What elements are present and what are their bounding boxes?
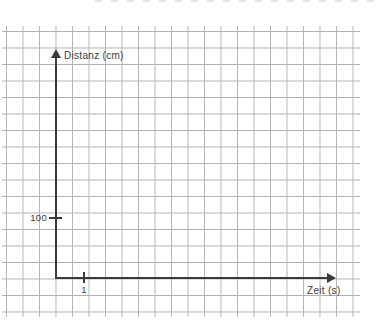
x-axis-tick-label: 1 [79,284,89,295]
x-axis-tick-mark [83,272,85,283]
y-axis-label: Distanz (cm) [64,50,124,61]
x-axis-label: Zeit (s) [307,285,341,296]
y-axis-line [55,57,57,279]
y-axis-tick-label: 100 [26,212,47,223]
graph-paper-figure: Distanz (cm) Zeit (s) 100 1 [0,0,377,332]
x-axis-line [55,277,327,279]
y-axis-tick-mark [49,217,62,219]
y-axis-arrow-icon [51,49,61,58]
scan-artifact [95,0,377,2]
x-axis-arrow-icon [327,273,336,283]
